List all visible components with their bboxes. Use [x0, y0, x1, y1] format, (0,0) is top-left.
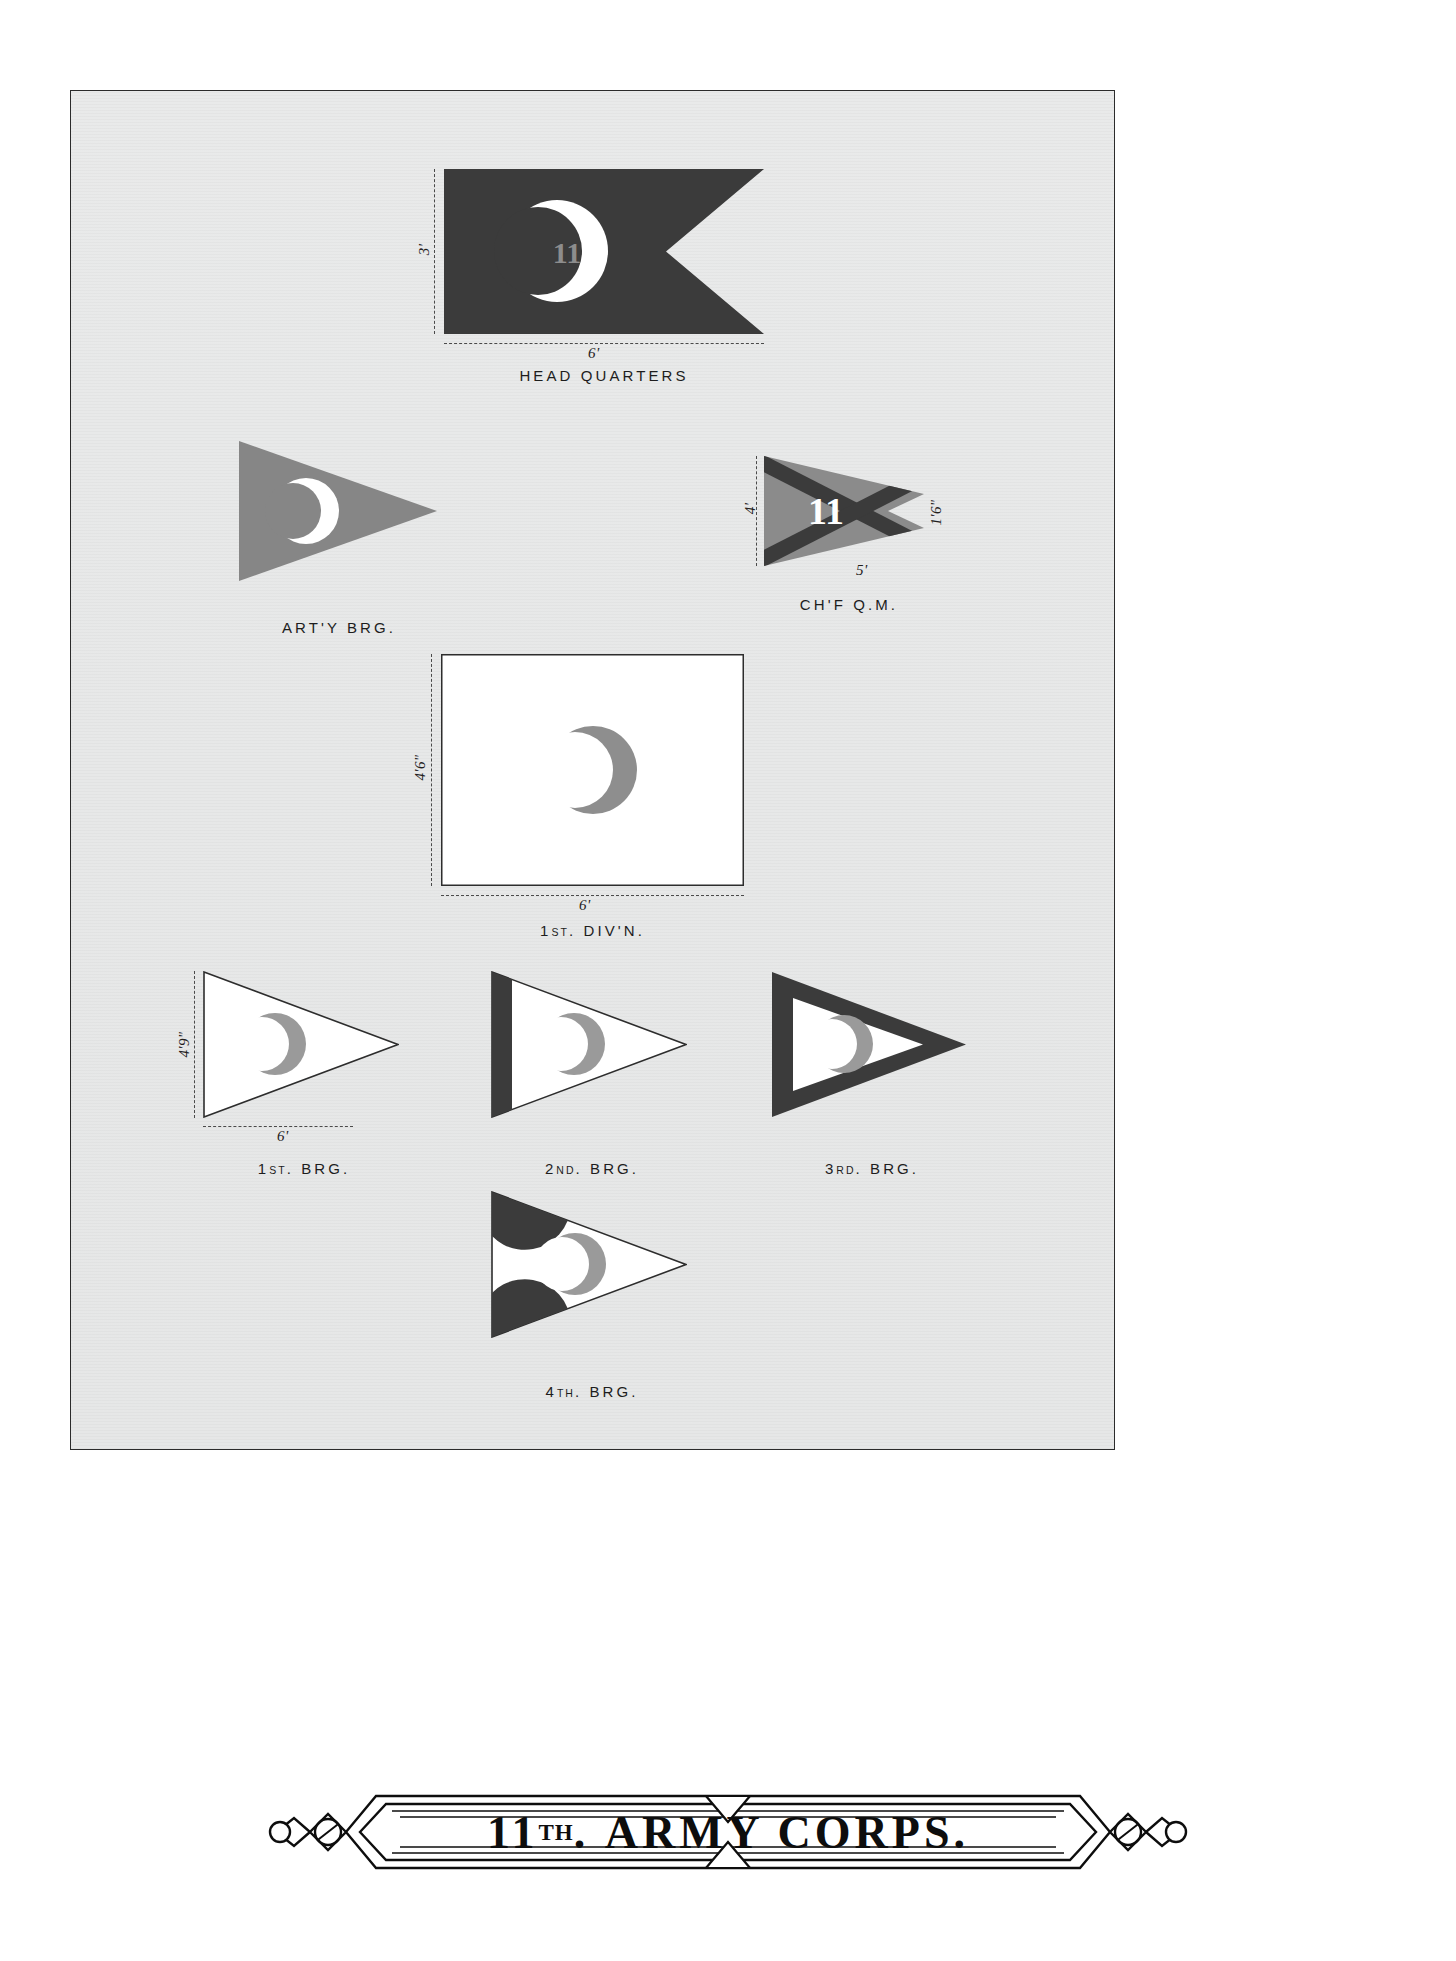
div1-height-dim: 4'6"	[412, 742, 429, 794]
caption-head-quarters: HEAD QUARTERS	[434, 367, 774, 384]
caption-brg3-sup: RD	[836, 1164, 855, 1176]
figure-third-brigade: 3RD. BRG.	[771, 971, 967, 1118]
first-brigade-flag	[203, 971, 399, 1118]
hq-corps-number: 11	[553, 236, 581, 269]
title-banner: 11TH. ARMY CORPS.	[268, 1770, 1188, 1895]
caption-div1-sup: ST	[552, 926, 569, 938]
caption-second-brigade: 2ND. BRG.	[447, 1160, 737, 1177]
figure-head-quarters: 11 3' 6' HEAD QUARTERS	[444, 169, 764, 334]
brg2-hoist-stripe	[491, 971, 512, 1118]
third-brigade-flag	[771, 971, 967, 1118]
caption-brg1-sup: ST	[269, 1164, 286, 1176]
artillery-brigade-flag	[239, 441, 437, 581]
caption-brg3-tail: . BRG.	[856, 1160, 920, 1177]
caption-brg2-lead: 2	[545, 1160, 556, 1177]
caption-brg4-lead: 4	[545, 1383, 556, 1400]
figure-artillery-brigade: ART'Y BRG.	[239, 441, 437, 581]
qm-width-dim: 5'	[856, 562, 868, 579]
caption-brg1-tail: . BRG.	[287, 1160, 351, 1177]
caption-brg4-sup: TH	[557, 1387, 575, 1399]
chief-quartermaster-flag: 11	[764, 456, 924, 566]
qm-corps-number: 11	[808, 490, 844, 532]
caption-brg2-tail: . BRG.	[576, 1160, 640, 1177]
banner-ornament	[268, 1770, 1188, 1895]
caption-fourth-brigade: 4TH. BRG.	[447, 1383, 737, 1400]
flag-plate: 11 3' 6' HEAD QUARTERS ART'Y BRG.	[70, 90, 1115, 1450]
qm-notch-dim: 1'6"	[928, 487, 945, 539]
caption-artillery-brigade: ART'Y BRG.	[199, 619, 479, 636]
caption-first-division: 1ST. DIV'N.	[421, 922, 764, 939]
brg1-width-dim: 6'	[277, 1128, 289, 1145]
caption-brg4-tail: . BRG.	[575, 1383, 639, 1400]
head-quarters-flag: 11	[444, 169, 764, 334]
second-brigade-flag	[491, 971, 687, 1118]
div1-width-dim: 6'	[579, 897, 591, 914]
fourth-brigade-flag	[491, 1191, 687, 1338]
caption-chief-quartermaster: CH'F Q.M.	[714, 596, 984, 613]
caption-brg3-lead: 3	[825, 1160, 836, 1177]
caption-first-brigade: 1ST. BRG.	[159, 1160, 449, 1177]
figure-chief-quartermaster: 11 4' 5' 1'6" CH'F Q.M.	[764, 456, 924, 566]
caption-div1-lead: 1	[540, 922, 551, 939]
figure-second-brigade: 2ND. BRG.	[491, 971, 687, 1118]
qm-height-dim: 4'	[742, 489, 759, 529]
figure-fourth-brigade: 4TH. BRG.	[491, 1191, 687, 1338]
figure-first-brigade: 4'9" 6' 1ST. BRG.	[203, 971, 399, 1118]
caption-brg2-sup: ND	[556, 1164, 575, 1176]
caption-third-brigade: 3RD. BRG.	[727, 1160, 1017, 1177]
caption-brg1-lead: 1	[258, 1160, 269, 1177]
brg1-height-dim: 4'9"	[176, 1019, 193, 1071]
caption-div1-tail: . DIV'N.	[569, 922, 645, 939]
hq-width-dim: 6'	[588, 345, 600, 362]
figure-first-division: 4'6" 6' 1ST. DIV'N.	[441, 654, 744, 886]
first-division-flag	[441, 654, 744, 886]
hq-height-dim: 3'	[416, 230, 433, 270]
